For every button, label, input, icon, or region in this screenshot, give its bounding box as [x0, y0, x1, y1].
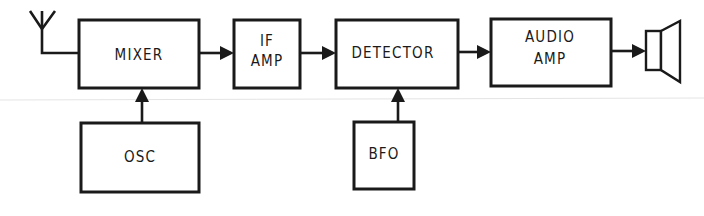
- arrow-audio-amp-to-speaker: [611, 44, 646, 58]
- if-amp-label-line2: AMP: [251, 52, 284, 70]
- osc-block: OSC: [81, 123, 199, 192]
- speaker-icon: [646, 21, 680, 82]
- arrow-osc-to-mixer: [135, 88, 149, 123]
- antenna-icon: [30, 11, 79, 53]
- bfo-block: BFO: [354, 122, 414, 189]
- detector-label: DETECTOR: [352, 44, 435, 62]
- arrow-detector-to-audio-amp: [458, 45, 491, 59]
- arrow-mixer-to-if-amp: [199, 46, 234, 60]
- osc-label: OSC: [124, 148, 156, 166]
- audio-amp-label-line1: AUDIO: [525, 28, 575, 46]
- audio-amp-block: AUDIO AMP: [491, 19, 611, 86]
- arrow-bfo-to-detector: [391, 88, 405, 122]
- mixer-label: MIXER: [115, 46, 164, 64]
- audio-amp-label-line2: AMP: [534, 50, 567, 68]
- block-diagram: MIXER IF AMP DETECTOR AUDIO AMP: [0, 0, 704, 216]
- bfo-label: BFO: [368, 145, 399, 163]
- if-amp-label-line1: IF: [260, 32, 274, 50]
- arrow-if-amp-to-detector: [300, 46, 336, 60]
- if-amp-block: IF AMP: [234, 20, 300, 88]
- scan-line: [0, 98, 704, 100]
- mixer-block: MIXER: [79, 20, 199, 88]
- detector-block: DETECTOR: [336, 20, 458, 88]
